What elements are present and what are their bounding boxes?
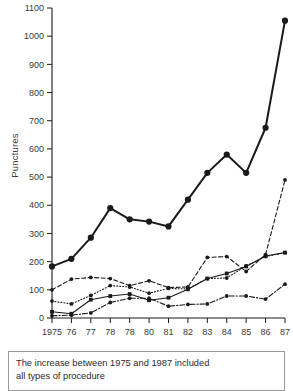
data-point-marker <box>283 282 287 286</box>
data-point-marker <box>244 294 248 298</box>
y-axis-ticks: 010020030040050060070080090010001100 <box>24 3 52 323</box>
data-point-marker <box>244 270 248 274</box>
data-point-marker <box>283 178 287 182</box>
data-point-marker <box>185 197 191 203</box>
data-point-marker <box>283 251 287 255</box>
svg-text:400: 400 <box>29 200 44 210</box>
svg-text:1975: 1975 <box>42 327 62 337</box>
data-point-marker <box>128 285 132 289</box>
data-point-marker <box>146 219 152 225</box>
svg-text:900: 900 <box>29 60 44 70</box>
data-point-marker <box>225 294 229 298</box>
svg-text:83: 83 <box>202 327 212 337</box>
svg-text:1100: 1100 <box>25 3 44 13</box>
data-point-marker <box>50 314 54 318</box>
data-point-marker <box>128 292 132 296</box>
data-point-marker <box>108 284 112 288</box>
svg-text:85: 85 <box>241 327 251 337</box>
data-point-marker <box>225 255 229 259</box>
data-point-marker <box>225 276 229 280</box>
svg-text:800: 800 <box>29 88 44 98</box>
data-point-marker <box>89 276 93 280</box>
data-point-marker <box>204 170 210 176</box>
data-point-marker <box>50 288 54 292</box>
data-point-marker <box>68 256 74 262</box>
caption-box: The increase between 1975 and 1987 inclu… <box>8 351 285 391</box>
data-point-marker <box>127 216 133 222</box>
svg-text:500: 500 <box>29 172 44 182</box>
svg-text:100: 100 <box>29 285 44 295</box>
data-point-marker <box>167 304 171 308</box>
data-point-marker <box>186 303 190 307</box>
svg-text:76: 76 <box>66 327 76 337</box>
svg-text:80: 80 <box>144 327 154 337</box>
data-point-marker <box>167 296 171 300</box>
data-point-marker <box>282 18 288 24</box>
data-series-group <box>49 18 288 318</box>
svg-text:0: 0 <box>39 313 44 323</box>
data-point-marker <box>49 263 55 269</box>
series-line-total-all-procedures <box>52 21 285 267</box>
data-point-marker <box>108 277 112 281</box>
data-point-marker <box>147 279 151 283</box>
svg-text:77: 77 <box>86 327 96 337</box>
data-point-marker <box>244 265 248 269</box>
data-point-marker <box>224 151 230 157</box>
svg-text:87: 87 <box>280 327 290 337</box>
data-point-marker <box>205 302 209 306</box>
svg-text:86: 86 <box>261 327 271 337</box>
data-point-marker <box>186 287 190 291</box>
data-point-marker <box>128 296 132 300</box>
svg-text:600: 600 <box>29 144 44 154</box>
svg-text:300: 300 <box>29 229 44 239</box>
data-point-marker <box>89 311 93 315</box>
data-point-marker <box>262 125 268 131</box>
data-point-marker <box>264 297 268 301</box>
data-point-marker <box>88 235 94 241</box>
svg-text:84: 84 <box>222 327 232 337</box>
data-point-marker <box>108 294 112 298</box>
data-point-marker <box>243 170 249 176</box>
data-point-marker <box>205 277 209 281</box>
svg-text:78: 78 <box>125 327 135 337</box>
svg-text:700: 700 <box>29 116 44 126</box>
data-point-marker <box>107 205 113 211</box>
data-point-marker <box>70 302 74 306</box>
data-point-marker <box>70 277 74 281</box>
series-line-series-dashed <box>52 180 285 290</box>
data-point-marker <box>50 310 54 314</box>
data-point-marker <box>50 299 54 303</box>
svg-text:78: 78 <box>105 327 115 337</box>
data-point-marker <box>205 256 209 260</box>
data-point-marker <box>89 294 93 298</box>
data-point-marker <box>147 291 151 295</box>
caption-line-2: all types of procedure <box>16 370 277 383</box>
data-point-marker <box>147 296 151 300</box>
data-point-marker <box>70 313 74 317</box>
data-point-marker <box>167 287 171 291</box>
data-point-marker <box>165 223 171 229</box>
x-axis-ticks: 1975767778788081828384858687 <box>42 318 290 337</box>
svg-text:200: 200 <box>29 257 44 267</box>
svg-text:81: 81 <box>163 327 173 337</box>
data-point-marker <box>264 254 268 258</box>
data-point-marker <box>89 298 93 302</box>
svg-text:1000: 1000 <box>24 31 44 41</box>
svg-text:82: 82 <box>183 327 193 337</box>
data-point-marker <box>225 272 229 276</box>
data-point-marker <box>108 301 112 305</box>
caption-line-1: The increase between 1975 and 1987 inclu… <box>16 357 277 370</box>
